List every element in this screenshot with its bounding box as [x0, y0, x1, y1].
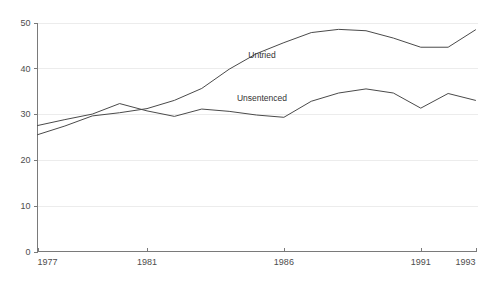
x-tick-label-1977: 1977	[38, 257, 58, 267]
y-tick-label-30: 30	[20, 109, 30, 119]
series-label-untried: Untried	[248, 50, 276, 60]
x-tick-label-1993: 1993	[455, 257, 475, 267]
y-tick-label-40: 40	[20, 64, 30, 74]
y-tick-label-10: 10	[20, 201, 30, 211]
y-tick-label-0: 0	[25, 247, 30, 257]
x-axis-tick-labels: 19771981198619911993	[38, 257, 476, 267]
x-tick-label-1986: 1986	[274, 257, 294, 267]
x-tick-label-1981: 1981	[137, 257, 157, 267]
chart-canvas: 01020304050 19771981198619911993 Untried…	[0, 0, 489, 281]
y-tick-label-20: 20	[20, 155, 30, 165]
y-axis-tick-labels: 01020304050	[20, 18, 30, 257]
x-tick-label-1991: 1991	[411, 257, 431, 267]
y-tick-label-50: 50	[20, 18, 30, 28]
line-chart: 01020304050 19771981198619911993 Untried…	[0, 0, 489, 281]
series-annotations: UntriedUnsentenced	[237, 50, 287, 103]
series-label-unsentenced: Unsentenced	[237, 93, 287, 103]
series-line-untried	[38, 29, 476, 134]
series-lines	[38, 29, 476, 134]
